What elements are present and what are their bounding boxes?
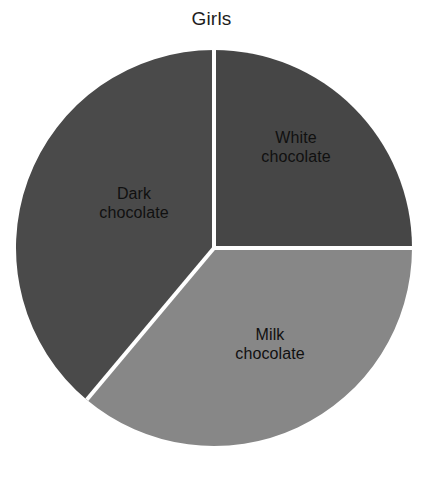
pie-chart-figure: Girls White chocolate Dark chocolate Mil…	[0, 0, 423, 478]
pie-chart-area	[14, 48, 414, 448]
pie-svg	[14, 48, 414, 448]
pie-slice-white-chocolate[interactable]	[214, 50, 412, 248]
chart-title: Girls	[0, 8, 423, 30]
